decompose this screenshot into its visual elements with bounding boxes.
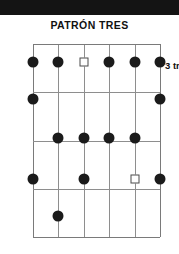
string-line-6 [160,44,161,237]
page-title: PATRÓN TRES [0,19,179,31]
fret-line-2 [33,141,160,142]
note-dot-marker-r1s6 [155,57,166,68]
note-dot-marker-r1s2 [53,57,64,68]
note-dot-marker-r4s1 [28,174,39,185]
scan-artifact-band [0,0,179,15]
note-dot-marker-r2s1 [28,94,39,105]
fret-line-4 [33,237,160,238]
note-dot-marker-r2s6 [155,94,166,105]
fret-line-0 [33,44,160,45]
fret-position-label: 3 tr [165,60,179,71]
note-dot-marker-r3s3 [78,133,89,144]
note-dot-marker-r4s6 [155,174,166,185]
fret-line-1 [33,92,160,93]
page-root: PATRÓN TRES 3 tr [0,0,179,254]
note-dot-marker-r1s1 [28,57,39,68]
fret-line-3 [33,189,160,190]
note-dot-marker-r1s5 [129,57,140,68]
root-note-marker-r4s5 [130,175,139,184]
root-note-marker-r1s3 [79,58,88,67]
note-dot-marker-r3s5 [129,133,140,144]
fretboard-diagram [33,44,160,237]
note-dot-marker-r1s4 [104,57,115,68]
note-dot-marker-r4s3 [78,174,89,185]
note-dot-marker-r5s2 [53,211,64,222]
note-dot-marker-r3s4 [104,133,115,144]
note-dot-marker-r3s2 [53,133,64,144]
